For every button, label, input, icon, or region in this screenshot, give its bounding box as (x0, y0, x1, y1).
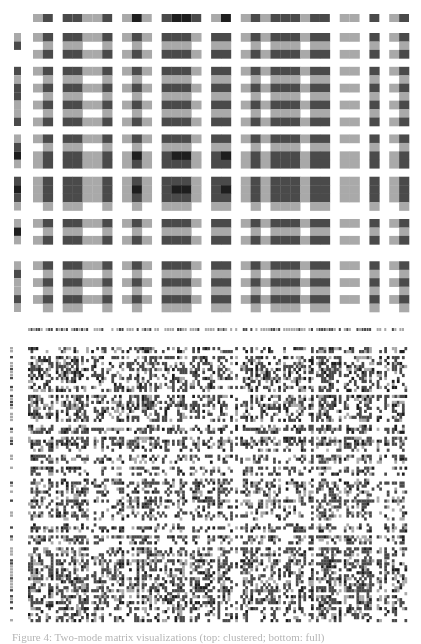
matrix-cell (258, 499, 261, 502)
matrix-cell (56, 529, 59, 532)
matrix-cell (301, 356, 304, 359)
column-marginal-cell (364, 328, 366, 331)
matrix-cell (162, 556, 165, 559)
matrix-cell (218, 455, 221, 458)
matrix-cell (73, 143, 83, 152)
matrix-cell (195, 416, 198, 419)
matrix-cell (293, 482, 296, 485)
matrix-cell (195, 583, 198, 586)
matrix-cell (235, 619, 238, 622)
matrix-cell (177, 610, 180, 613)
matrix-cell (250, 601, 253, 604)
matrix-cell (182, 362, 185, 365)
matrix-cell (321, 511, 324, 514)
matrix-cell (68, 380, 71, 383)
matrix-cell (164, 362, 167, 365)
matrix-cell (300, 185, 310, 194)
matrix-cell (331, 365, 334, 368)
column-marginal-cell (329, 328, 331, 331)
matrix-cell (197, 383, 200, 386)
matrix-cell (311, 616, 314, 619)
matrix-cell (41, 601, 44, 604)
column-marginal-cell (191, 14, 201, 22)
matrix-cell (263, 431, 266, 434)
matrix-cell (399, 401, 402, 404)
matrix-cell (149, 398, 152, 401)
matrix-cell (402, 431, 405, 434)
matrix-cell (137, 350, 140, 353)
matrix-cell (235, 458, 238, 461)
matrix-cell (167, 482, 170, 485)
matrix-cell (296, 490, 299, 493)
matrix-cell (283, 362, 286, 365)
matrix-cell (300, 219, 310, 228)
matrix-cell (157, 490, 160, 493)
matrix-cell (278, 410, 281, 413)
matrix-cell (192, 499, 195, 502)
matrix-cell (169, 401, 172, 404)
matrix-cell (225, 589, 228, 592)
matrix-cell (356, 395, 359, 398)
matrix-cell (207, 502, 210, 505)
matrix-cell (324, 428, 327, 431)
matrix-cell (311, 595, 314, 598)
matrix-cell (377, 577, 380, 580)
matrix-cell (392, 386, 395, 389)
matrix-cell (111, 583, 114, 586)
matrix-cell (250, 389, 253, 392)
matrix-cell (329, 547, 332, 550)
matrix-cell (33, 538, 36, 541)
matrix-cell (288, 574, 291, 577)
matrix-cell (31, 574, 34, 577)
matrix-cell (157, 574, 160, 577)
matrix-cell (349, 395, 352, 398)
matrix-cell (76, 371, 79, 374)
row-marginal-cell (10, 419, 13, 421)
matrix-cell (218, 490, 221, 493)
matrix-cell (321, 362, 324, 365)
matrix-cell (235, 386, 238, 389)
matrix-cell (191, 219, 201, 228)
matrix-cell (283, 586, 286, 589)
matrix-cell (223, 419, 226, 422)
matrix-cell (402, 490, 405, 493)
matrix-cell (202, 416, 205, 419)
matrix-cell (293, 425, 296, 428)
matrix-cell (344, 350, 347, 353)
matrix-cell (364, 568, 367, 571)
matrix-cell (129, 410, 132, 413)
matrix-cell (334, 440, 337, 443)
matrix-cell (311, 443, 314, 446)
matrix-cell (301, 485, 304, 488)
matrix-cell (225, 404, 228, 407)
matrix-cell (43, 490, 46, 493)
matrix-cell (154, 598, 157, 601)
matrix-cell (132, 404, 135, 407)
matrix-cell (402, 482, 405, 485)
matrix-cell (301, 473, 304, 476)
matrix-cell (180, 616, 183, 619)
matrix-cell (392, 535, 395, 538)
matrix-cell (278, 568, 281, 571)
matrix-cell (48, 380, 51, 383)
matrix-cell (321, 487, 324, 490)
matrix-cell (157, 377, 160, 380)
matrix-cell (63, 350, 66, 353)
matrix-cell (43, 595, 46, 598)
matrix-cell (142, 568, 145, 571)
matrix-cell (290, 227, 300, 236)
matrix-cell (243, 416, 246, 419)
matrix-cell (84, 485, 87, 488)
matrix-cell (278, 407, 281, 410)
matrix-cell (86, 437, 89, 440)
matrix-cell (392, 547, 395, 550)
matrix-cell (36, 574, 39, 577)
matrix-cell (81, 601, 84, 604)
matrix-cell (101, 410, 104, 413)
row-marginal-cell (14, 219, 21, 227)
matrix-cell (121, 356, 124, 359)
column-marginal-cell (172, 328, 174, 331)
matrix-cell (33, 118, 43, 127)
matrix-cell (271, 416, 274, 419)
matrix-cell (225, 559, 228, 562)
